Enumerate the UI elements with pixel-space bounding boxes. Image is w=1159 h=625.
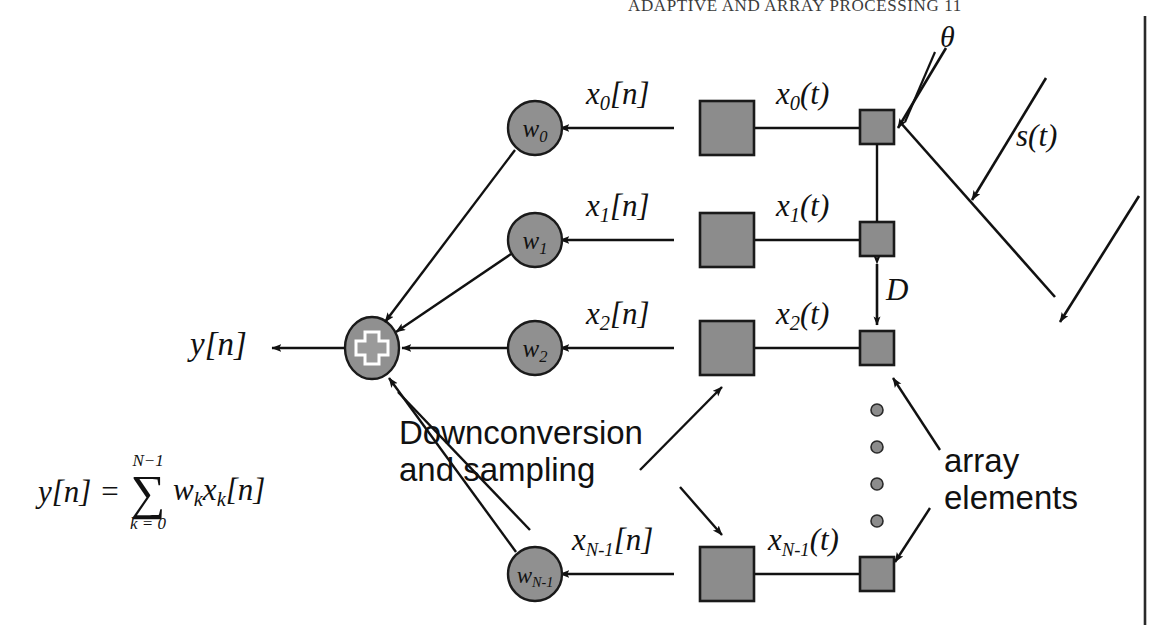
weight-node-label-2: w2: [505, 336, 565, 365]
wave-arrow-1: [898, 48, 946, 128]
weight-node-label-0: w0: [505, 116, 565, 145]
signal-label-digital-0: x0[n]: [586, 78, 650, 114]
signal-label-digital-2: x2[n]: [586, 298, 650, 334]
theta-leader-line: [905, 52, 935, 122]
equation-lhs: y[n] =: [38, 474, 120, 510]
array-element-2: [860, 331, 894, 365]
wire-w1-to-sum: [396, 254, 511, 332]
leader-array-elements-down: [895, 508, 930, 562]
array-element-3: [860, 557, 894, 591]
weight-node-label-3: wN-1: [501, 564, 569, 590]
wave-arrow-3: [1060, 196, 1139, 322]
signal-label-digital-3: xN-1[n]: [572, 524, 653, 559]
leader-array-elements-up: [893, 378, 940, 450]
source-signal-label: s(t): [1016, 120, 1057, 151]
array-element-0: [860, 110, 894, 144]
ellipsis-dot: [871, 478, 883, 490]
sigma-lower-limit: k = 0: [130, 515, 166, 532]
downconverter-block-1: [700, 213, 754, 267]
sigma-glyph-icon: ∑: [131, 468, 166, 517]
leader-downconversion-down: [680, 487, 722, 535]
array-element-1: [860, 222, 894, 256]
signal-label-analog-1: x1(t): [776, 190, 829, 226]
figure-page: ADAPTIVE AND ARRAY PROCESSING 11: [0, 0, 1159, 625]
downconverter-block-0: [700, 101, 754, 155]
annotation-array-elements-line2: elements: [944, 480, 1078, 517]
beamformer-equation: y[n] = N−1 ∑ k = 0 wkxk[n]: [38, 452, 265, 532]
ellipsis-dot: [871, 404, 883, 416]
ellipsis-dot: [871, 441, 883, 453]
annotation-array-elements: array elements: [944, 443, 1078, 517]
element-spacing-label: D: [886, 274, 908, 305]
equation-rhs: wkxk[n]: [173, 472, 265, 511]
leader-downconversion-up: [640, 387, 722, 470]
signal-label-analog-0: x0(t): [776, 78, 829, 114]
annotation-downconversion-line2: and sampling: [399, 452, 643, 489]
angle-label-theta: θ: [940, 22, 955, 52]
weight-node-label-1: w1: [505, 228, 565, 257]
annotation-downconversion-line1: Downconversion: [399, 415, 643, 452]
signal-label-digital-1: x1[n]: [586, 190, 650, 226]
signal-label-analog-2: x2(t): [776, 298, 829, 334]
annotation-downconversion: Downconversion and sampling: [399, 415, 643, 489]
summation-operator: N−1 ∑ k = 0: [130, 452, 166, 532]
downconverter-block-3: [700, 547, 754, 601]
signal-label-analog-3: xN-1(t): [768, 524, 839, 559]
downconverter-block-2: [700, 321, 754, 375]
output-label: y[n]: [190, 328, 247, 361]
annotation-array-elements-line1: array: [944, 443, 1078, 480]
ellipsis-dot: [871, 515, 883, 527]
